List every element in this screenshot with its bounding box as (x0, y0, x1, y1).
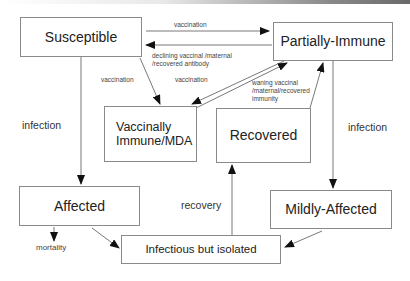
edge-mild-to-isolated (285, 231, 322, 247)
node-label: Susceptible (45, 29, 117, 45)
node-mildly-affected: Mildly-Affected (270, 190, 392, 229)
node-affected: Affected (19, 186, 140, 226)
label-waning-1: waning vaccinal (252, 79, 298, 87)
label-declining-2: /recovered antibody (152, 60, 209, 68)
node-label: Affected (54, 198, 105, 214)
label-mortality: mortality (36, 243, 66, 253)
label-infection-right: infection (348, 121, 387, 133)
node-susceptible: Susceptible (20, 17, 142, 57)
label-recovery: recovery (181, 199, 221, 211)
label-vaccination-left: vaccination (101, 76, 134, 84)
node-label: Mildly-Affected (285, 201, 377, 217)
node-recovered: Recovered (216, 108, 311, 163)
node-label-line1: Vaccinally (116, 120, 171, 134)
node-label: Recovered (230, 127, 298, 143)
node-label: Infectious but isolated (145, 243, 256, 256)
node-partially-immune: Partially-Immune (273, 22, 393, 61)
node-label-line2: Immune/MDA (116, 134, 192, 148)
label-declining-1: declining vaccinal /maternal (152, 52, 232, 60)
node-label: Partially-Immune (280, 33, 385, 49)
label-waning-3: immunity (252, 95, 278, 103)
node-infectious-isolated: Infectious but isolated (121, 235, 281, 264)
label-waning-2: /maternal/recovered (252, 87, 310, 95)
label-infection-left: infection (22, 119, 61, 131)
edge-waning-recovered (310, 63, 323, 108)
edge-affected-to-isolated (92, 228, 119, 248)
label-vaccination-top: vaccination (174, 21, 207, 29)
label-vaccination-mid: vaccination (175, 76, 208, 84)
node-vaccinally-immune: Vaccinally Immune/MDA (104, 106, 197, 162)
